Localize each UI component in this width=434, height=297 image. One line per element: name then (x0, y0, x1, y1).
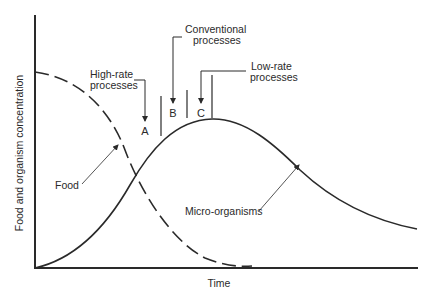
food-arrow-icon (82, 145, 118, 184)
micro-organisms-curve (35, 119, 417, 268)
zone-letter-b: B (169, 107, 176, 119)
low-rate-label-line2: processes (250, 71, 298, 83)
conventional-arrow-icon (173, 37, 182, 103)
x-axis-label: Time (208, 277, 231, 289)
food-curve (35, 72, 252, 266)
zone-letter-c: C (197, 107, 205, 119)
conventional-label-line2: processes (193, 34, 241, 46)
food-label: Food (55, 179, 79, 191)
micro-organisms-arrow-icon (259, 165, 299, 211)
low-rate-arrow-icon (201, 71, 246, 103)
growth-curve-diagram: Food and organism concentration Time A B… (0, 0, 434, 297)
y-axis-label: Food and organism concentration (13, 75, 25, 232)
zone-letter-a: A (141, 125, 149, 137)
high-rate-label-line2: processes (90, 79, 138, 91)
micro-organisms-label: Micro-organisms (185, 205, 263, 217)
